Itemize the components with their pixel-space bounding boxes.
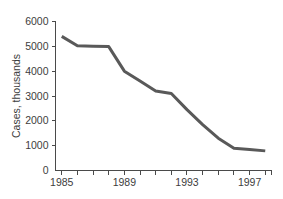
line-chart: 0100020003000400050006000 19851989199319… (0, 0, 283, 199)
y-axis-title-text: Cases, thousands (10, 54, 22, 138)
x-tick-label: 1985 (50, 176, 74, 188)
y-tick-label: 0 (43, 164, 49, 176)
y-axis: 0100020003000400050006000 (25, 15, 55, 176)
y-axis-title: Cases, thousands (10, 54, 22, 138)
series-line (62, 36, 265, 150)
y-tick-label: 5000 (25, 40, 49, 52)
x-tick-label: 1989 (113, 176, 137, 188)
y-tick-label: 6000 (25, 15, 49, 27)
y-tick-label: 2000 (25, 114, 49, 126)
x-axis: 1985198919931997 (50, 171, 271, 188)
y-tick-label: 3000 (25, 90, 49, 102)
x-tick-label: 1993 (175, 176, 199, 188)
chart-canvas: 0100020003000400050006000 19851989199319… (0, 0, 283, 199)
x-tick-label: 1997 (238, 176, 262, 188)
y-tick-label: 1000 (25, 139, 49, 151)
data-series (62, 36, 265, 150)
y-tick-label: 4000 (25, 65, 49, 77)
